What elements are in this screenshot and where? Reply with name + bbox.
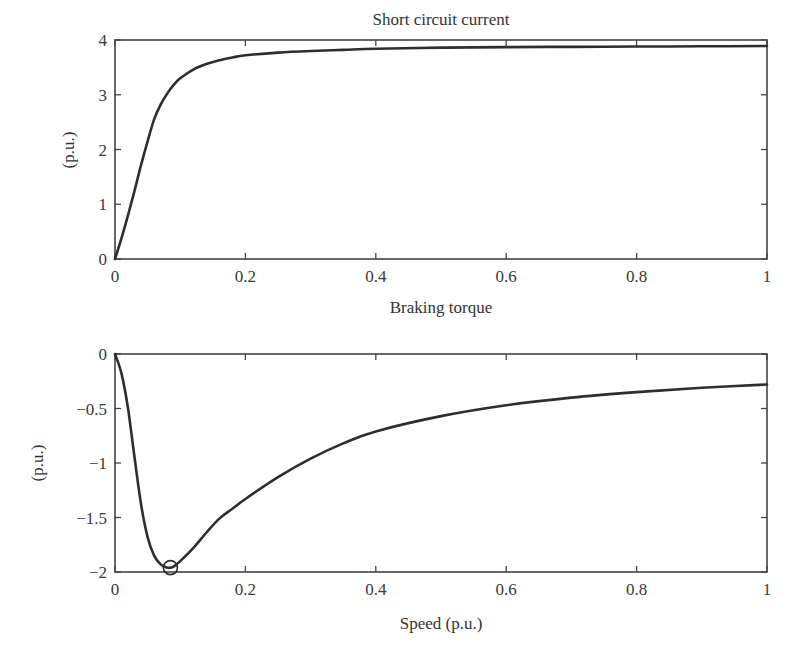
y-tick-label: 4 [99, 31, 108, 50]
current-curve [115, 46, 767, 259]
y-tick-label: 2 [99, 141, 108, 160]
x-tick-label: 0.6 [496, 267, 517, 286]
plot-title: Braking torque [390, 298, 492, 317]
short-circuit-current-plot: Short circuit current 01234 00.20.40.60.… [59, 10, 771, 286]
x-tick-labels: 00.20.40.60.81 [111, 267, 772, 286]
plot-frame [115, 354, 767, 572]
y-tick-label: 1 [99, 195, 108, 214]
figure: Short circuit current 01234 00.20.40.60.… [0, 0, 795, 667]
x-tick-label: 0.8 [626, 267, 647, 286]
y-tick-label: 0 [99, 345, 108, 364]
braking-torque-plot: Braking torque 0−0.5−1−1.5−2 00.20.40.60… [28, 298, 771, 633]
y-tick-label: −0.5 [76, 400, 107, 419]
y-tick-label: −2 [89, 563, 107, 582]
plot-title: Short circuit current [373, 10, 510, 29]
x-tick-label: 1 [763, 580, 772, 599]
tick-marks [115, 354, 767, 572]
y-tick-labels: 01234 [99, 31, 108, 269]
y-tick-label: −1 [89, 454, 107, 473]
torque-curve [115, 354, 767, 568]
x-tick-label: 0.2 [235, 267, 256, 286]
y-tick-labels: 0−0.5−1−1.5−2 [76, 345, 107, 582]
x-tick-label: 0.4 [365, 580, 387, 599]
x-tick-label: 0.2 [235, 580, 256, 599]
y-axis-label: (p.u.) [59, 132, 78, 169]
x-axis-label: Speed (p.u.) [400, 614, 483, 633]
x-tick-label: 0.6 [496, 580, 517, 599]
x-tick-label: 1 [763, 267, 772, 286]
y-tick-label: 0 [99, 250, 108, 269]
y-axis-label: (p.u.) [28, 445, 47, 482]
tick-marks [115, 40, 767, 259]
x-tick-label: 0.4 [365, 267, 387, 286]
x-tick-label: 0.8 [626, 580, 647, 599]
y-tick-label: −1.5 [76, 509, 107, 528]
y-tick-label: 3 [99, 86, 108, 105]
x-tick-label: 0 [111, 580, 120, 599]
x-tick-labels: 00.20.40.60.81 [111, 580, 772, 599]
x-tick-label: 0 [111, 267, 120, 286]
plot-frame [115, 40, 767, 259]
